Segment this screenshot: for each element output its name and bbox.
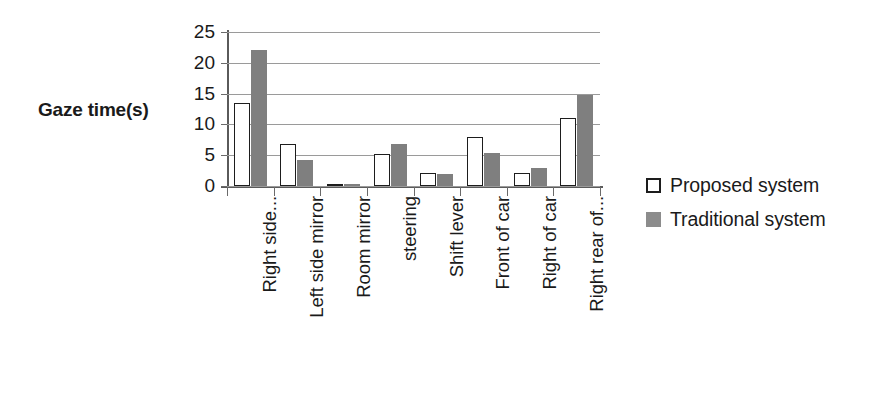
- y-axis-tick-label: 0: [181, 176, 215, 195]
- bar: [560, 118, 576, 186]
- x-axis-tick: [460, 187, 461, 196]
- y-axis-tick-label: 25: [181, 22, 215, 41]
- y-axis-tick-label: 20: [181, 53, 215, 72]
- bar: [437, 174, 453, 186]
- bar-chart-figure: Gaze time(s) 0510152025 Right side...Lef…: [0, 0, 887, 397]
- y-axis-title: Gaze time(s): [38, 99, 198, 121]
- bar: [297, 160, 313, 186]
- x-axis-tick: [227, 187, 228, 196]
- bar: [514, 173, 530, 186]
- x-axis-category-label: Shift lever: [446, 196, 468, 277]
- bar: [484, 153, 500, 186]
- x-axis-category-label: Front of car: [492, 196, 514, 289]
- x-axis-tick: [367, 187, 368, 196]
- bar: [251, 50, 267, 186]
- hollow-square-marker-icon: [646, 178, 661, 193]
- legend-item-traditional-system[interactable]: Traditional system: [646, 202, 826, 236]
- y-axis-tick-label: 10: [181, 114, 215, 133]
- x-axis-tick: [600, 187, 601, 196]
- bar: [577, 95, 593, 186]
- x-axis-category-label: Right rear of...: [586, 196, 608, 312]
- x-axis-tick: [320, 187, 321, 196]
- gridline: [227, 94, 600, 95]
- plot-area: [227, 32, 600, 186]
- x-axis-category-label: Right side...: [259, 196, 281, 292]
- filled-square-marker-icon: [646, 212, 661, 227]
- gridline: [227, 124, 600, 125]
- bar: [374, 154, 390, 186]
- bar: [234, 103, 250, 186]
- bar: [420, 173, 436, 186]
- x-axis-tick: [414, 187, 415, 196]
- gridline: [227, 32, 600, 33]
- chart-legend: Proposed system Traditional system: [646, 168, 826, 236]
- bar: [344, 184, 360, 186]
- y-axis-tick-label: 15: [181, 84, 215, 103]
- legend-label: Traditional system: [670, 208, 826, 231]
- legend-item-proposed-system[interactable]: Proposed system: [646, 168, 826, 202]
- bar: [280, 144, 296, 186]
- bar: [327, 184, 343, 186]
- bar: [531, 168, 547, 186]
- gridline: [227, 63, 600, 64]
- legend-label: Proposed system: [670, 174, 819, 197]
- x-axis-tick: [274, 187, 275, 196]
- x-axis-category-label: Left side mirror: [306, 196, 328, 318]
- x-axis-tick: [507, 187, 508, 196]
- bar: [467, 137, 483, 186]
- x-axis-category-label: Right of car: [539, 196, 561, 289]
- x-axis-category-label: Room mirror: [353, 196, 375, 298]
- gridline: [227, 186, 600, 187]
- bar: [391, 144, 407, 186]
- x-axis-category-label: steering: [399, 196, 421, 261]
- x-axis-tick: [553, 187, 554, 196]
- y-axis-tick-label: 5: [181, 145, 215, 164]
